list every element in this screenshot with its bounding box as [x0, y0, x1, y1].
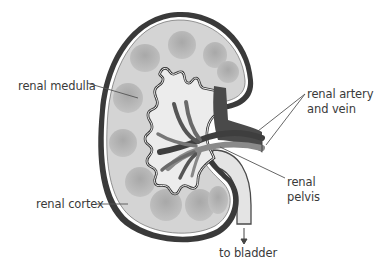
label-to-bladder: to bladder	[219, 246, 277, 260]
leader-renal-vein	[266, 94, 305, 145]
label-renal-pelvis-line1: renal	[287, 175, 316, 189]
arrow-down-icon	[241, 228, 247, 244]
kidney-diagram: renal medulla renal artery and vein rena…	[0, 0, 381, 269]
label-renal-artery-line2: and vein	[307, 102, 356, 116]
label-renal-medulla: renal medulla	[18, 79, 96, 93]
label-renal-cortex: renal cortex	[36, 197, 104, 211]
kidney-illustration	[0, 0, 381, 269]
label-renal-artery-line1: renal artery	[307, 87, 373, 101]
label-renal-pelvis-line2: pelvis	[287, 190, 320, 204]
